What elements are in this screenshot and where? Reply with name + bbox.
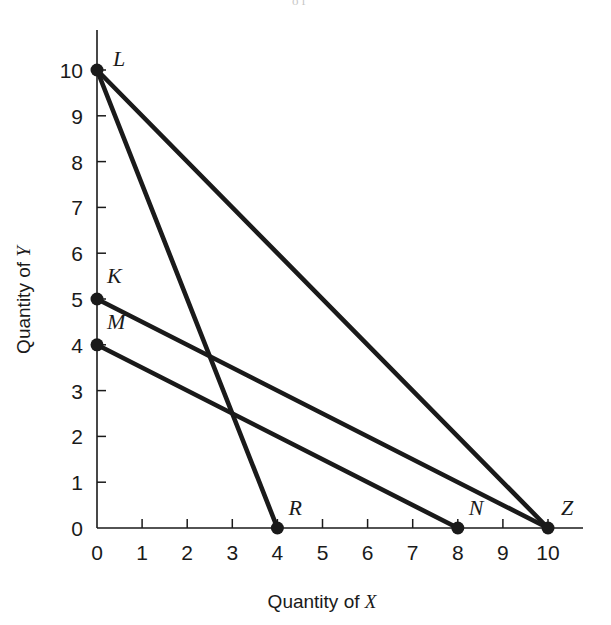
y-tick-label: 2 [71,425,83,448]
x-tick-label: 0 [91,541,103,564]
budget-line-k-z [97,299,548,528]
point-marker-K [91,293,104,306]
x-tick-label: 5 [317,541,329,564]
point-label-N: N [468,495,485,520]
x-tick-label: 3 [226,541,238,564]
plot-area: LKMRNZ 012345678910 012345678910 [60,30,583,564]
point-marker-M [91,338,104,351]
point-marker-R [271,522,284,535]
data-lines [97,70,548,528]
point-marker-Z [542,522,555,535]
x-tick-label: 4 [272,541,284,564]
x-tick-label: 9 [497,541,509,564]
y-tick-label: 4 [71,334,83,357]
point-label-R: R [287,495,302,520]
point-marker-N [451,522,464,535]
y-tick-label: 3 [71,380,83,403]
y-tick-label: 5 [71,288,83,311]
y-tick-label: 10 [60,59,83,82]
y-tick-label: 6 [71,242,83,265]
budget-line-l-r [97,70,277,528]
x-axis-title: Quantity of X [268,591,378,612]
x-tick-label: 7 [407,541,419,564]
axes [97,30,583,528]
y-tick-label: 0 [71,517,83,540]
x-tick-label: 10 [536,541,559,564]
x-tick-labels: 012345678910 [91,541,560,564]
point-label-Z: Z [561,495,574,520]
y-tick-label: 8 [71,151,83,174]
y-tick-label: 1 [71,471,83,494]
y-tick-labels: 012345678910 [60,59,84,540]
x-tick-label: 6 [362,541,374,564]
budget-line-m-n [97,345,458,528]
y-tick-label: 9 [71,105,83,128]
point-label-M: M [106,309,127,334]
y-tick-label: 7 [71,196,83,219]
x-tick-label: 2 [181,541,193,564]
point-label-L: L [112,46,125,71]
point-marker-L [91,64,104,77]
budget-line-chart: LKMRNZ 012345678910 012345678910 Quantit… [0,0,611,625]
x-tick-label: 1 [136,541,148,564]
point-labels: LKMRNZ [106,46,574,520]
x-tick-label: 8 [452,541,464,564]
point-label-K: K [106,263,123,288]
y-axis-title: Quantity of Y [13,244,34,354]
